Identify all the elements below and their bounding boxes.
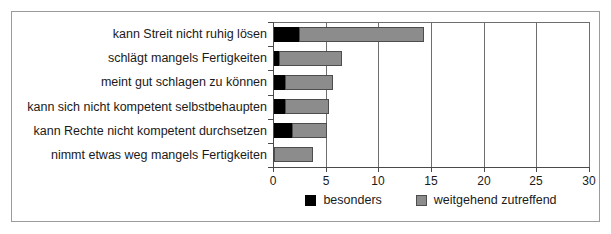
x-tick-0 xyxy=(273,167,274,172)
gridline-30 xyxy=(589,22,590,167)
y-tick xyxy=(268,46,273,47)
chart-legend: besondersweitgehend zutreffend xyxy=(273,190,589,210)
bar-row xyxy=(274,51,590,66)
x-tick-label: 30 xyxy=(582,174,595,188)
x-tick-20 xyxy=(484,167,485,172)
y-tick xyxy=(268,143,273,144)
bar-segment xyxy=(274,27,299,42)
bar-segment xyxy=(274,75,285,90)
bar-segment xyxy=(299,27,423,42)
x-tick-15 xyxy=(431,167,432,172)
value-axis-line xyxy=(273,22,274,167)
bar-row xyxy=(274,99,590,114)
x-tick-label: 10 xyxy=(371,174,384,188)
gridline-25 xyxy=(536,22,537,167)
x-tick-label: 20 xyxy=(477,174,490,188)
gridline-20 xyxy=(484,22,485,167)
gridline-5 xyxy=(326,22,327,167)
x-tick-label: 25 xyxy=(529,174,542,188)
chart-figure: kann Streit nicht ruhig lösenschlägt man… xyxy=(11,11,600,222)
gridline-10 xyxy=(378,22,379,167)
category-axis-labels: kann Streit nicht ruhig lösenschlägt man… xyxy=(12,22,267,167)
plot-area: 051015202530 xyxy=(273,22,589,167)
x-tick-5 xyxy=(326,167,327,172)
category-label: meint gut schlagen zu können xyxy=(101,75,267,89)
bar-segment xyxy=(285,75,333,90)
category-label: kann Streit nicht ruhig lösen xyxy=(113,27,267,41)
y-tick xyxy=(268,119,273,120)
y-tick xyxy=(268,167,273,168)
category-label: schlägt mangels Fertigkeiten xyxy=(108,51,267,65)
x-tick-label: 5 xyxy=(323,174,330,188)
category-label: nimmt etwas weg mangels Fertigkeiten xyxy=(51,148,267,162)
x-tick-label: 0 xyxy=(270,174,277,188)
bar-segment xyxy=(274,123,292,138)
gray-swatch-icon xyxy=(416,195,427,206)
legend-label: besonders xyxy=(323,193,381,207)
x-tick-30 xyxy=(589,167,590,172)
legend-label: weitgehend zutreffend xyxy=(434,193,557,207)
legend-entry: weitgehend zutreffend xyxy=(416,193,557,207)
bar-segment xyxy=(292,123,327,138)
y-tick xyxy=(268,95,273,96)
x-tick-25 xyxy=(536,167,537,172)
legend-entry: besonders xyxy=(305,193,381,207)
bar-segment xyxy=(279,51,342,66)
bar-segment xyxy=(274,99,285,114)
bar-row xyxy=(274,27,590,42)
bar-segment xyxy=(285,99,329,114)
bar-row xyxy=(274,123,590,138)
bar-row xyxy=(274,147,590,162)
category-label: kann sich nicht kompetent selbstbehaupte… xyxy=(27,100,267,114)
black-swatch-icon xyxy=(305,195,316,206)
y-tick xyxy=(268,70,273,71)
category-label: kann Rechte nicht kompetent durchsetzen xyxy=(34,124,267,138)
bar-row xyxy=(274,75,590,90)
gridline-15 xyxy=(431,22,432,167)
x-tick-label: 15 xyxy=(424,174,437,188)
bar-segment xyxy=(274,147,313,162)
x-tick-10 xyxy=(378,167,379,172)
y-tick xyxy=(268,22,273,23)
